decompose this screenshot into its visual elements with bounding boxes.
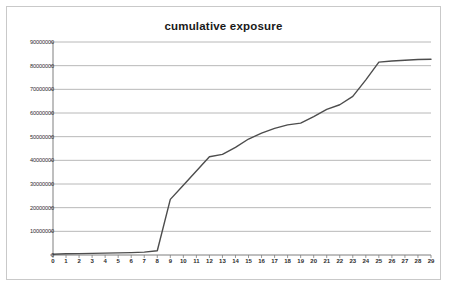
chart-container: cumulative exposure 01000000020000000300… xyxy=(6,6,441,280)
plot-area: 0100000002000000030000000400000005000000… xyxy=(7,7,442,281)
x-axis-labels: 0123456789101112131415161718192021222324… xyxy=(7,7,442,281)
x-axis-tick-label: 29 xyxy=(422,258,440,264)
